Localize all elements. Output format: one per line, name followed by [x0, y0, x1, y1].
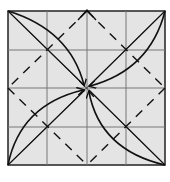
crease-pattern-diagram — [0, 0, 170, 182]
